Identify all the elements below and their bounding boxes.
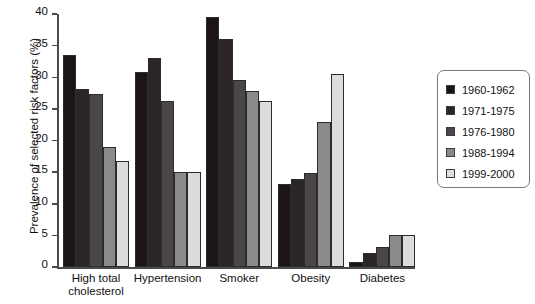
bar: [187, 172, 200, 267]
y-tick-label: 5: [42, 227, 48, 239]
legend-label: 1971-1975: [462, 105, 515, 117]
bar: [304, 173, 317, 267]
y-tick-label: 15: [35, 163, 48, 175]
legend: 1960-19621971-19751976-19801988-19941999…: [437, 70, 530, 188]
legend-label: 1999-2000: [462, 168, 515, 180]
y-tick-label: 25: [35, 100, 48, 112]
y-tick: 25: [52, 108, 57, 110]
y-tick-label: 10: [35, 195, 48, 207]
legend-item: 1960-1962: [446, 79, 529, 100]
bar: [259, 101, 272, 267]
bar: [291, 179, 304, 267]
legend-item: 1999-2000: [446, 163, 529, 184]
bar: [89, 94, 102, 267]
legend-items: 1960-19621971-19751976-19801988-19941999…: [446, 79, 529, 184]
y-tick-label: 0: [42, 258, 48, 270]
bar-chart: Prevalence of selected risk factors (%) …: [0, 0, 535, 304]
y-tick: 40: [52, 13, 57, 15]
legend-swatch-icon: [446, 106, 455, 115]
bar: [219, 39, 232, 267]
legend-swatch-icon: [446, 127, 455, 136]
x-axis-label-5: Diabetes: [322, 272, 442, 285]
y-tick: 10: [52, 203, 57, 205]
legend-label: 1988-1994: [462, 147, 515, 159]
y-tick-label: 30: [35, 69, 48, 81]
bar: [376, 247, 389, 267]
bar: [161, 101, 174, 267]
bar: [174, 172, 187, 268]
x-axis-line: [57, 267, 415, 269]
bar: [233, 80, 246, 267]
bar: [63, 55, 76, 267]
bar: [246, 91, 259, 267]
y-tick: 15: [52, 171, 57, 173]
bar: [206, 17, 219, 267]
bar: [389, 235, 402, 267]
bar: [363, 253, 376, 267]
y-tick: 20: [52, 140, 57, 142]
legend-item: 1976-1980: [446, 121, 529, 142]
legend-item: 1988-1994: [446, 142, 529, 163]
y-tick: 0: [52, 266, 57, 268]
legend-swatch-icon: [446, 169, 455, 178]
y-tick: 35: [52, 45, 57, 47]
y-tick-label: 35: [35, 37, 48, 49]
legend-swatch-icon: [446, 85, 455, 94]
bar: [331, 74, 344, 267]
legend-label: 1960-1962: [462, 84, 515, 96]
legend-item: 1971-1975: [446, 100, 529, 121]
bar: [278, 184, 291, 267]
y-axis-line: [57, 14, 59, 267]
plot-area: 0510152025303540: [57, 14, 415, 267]
bar: [402, 235, 415, 267]
bar: [135, 72, 148, 267]
bar: [76, 89, 89, 267]
y-tick: 30: [52, 77, 57, 79]
y-tick-label: 20: [35, 132, 48, 144]
bar: [349, 262, 362, 267]
y-tick-label: 40: [35, 5, 48, 17]
legend-label: 1976-1980: [462, 126, 515, 138]
bar: [116, 161, 129, 267]
bar: [103, 147, 116, 267]
legend-swatch-icon: [446, 148, 455, 157]
y-tick: 5: [52, 235, 57, 237]
bar: [317, 122, 330, 267]
bar: [148, 58, 161, 267]
